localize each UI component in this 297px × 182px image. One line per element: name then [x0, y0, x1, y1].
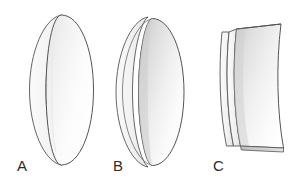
shape-c-group: C: [213, 24, 284, 174]
shape-a-label: A: [17, 157, 27, 174]
shape-c-label: C: [213, 157, 224, 174]
shape-a-face: [46, 15, 94, 165]
shape-a-group: A: [17, 15, 94, 174]
shape-b-group: B: [113, 17, 184, 174]
shape-b-label: B: [113, 157, 123, 174]
figure-canvas: A B: [0, 0, 297, 182]
figure-illustration: A B: [0, 0, 297, 182]
